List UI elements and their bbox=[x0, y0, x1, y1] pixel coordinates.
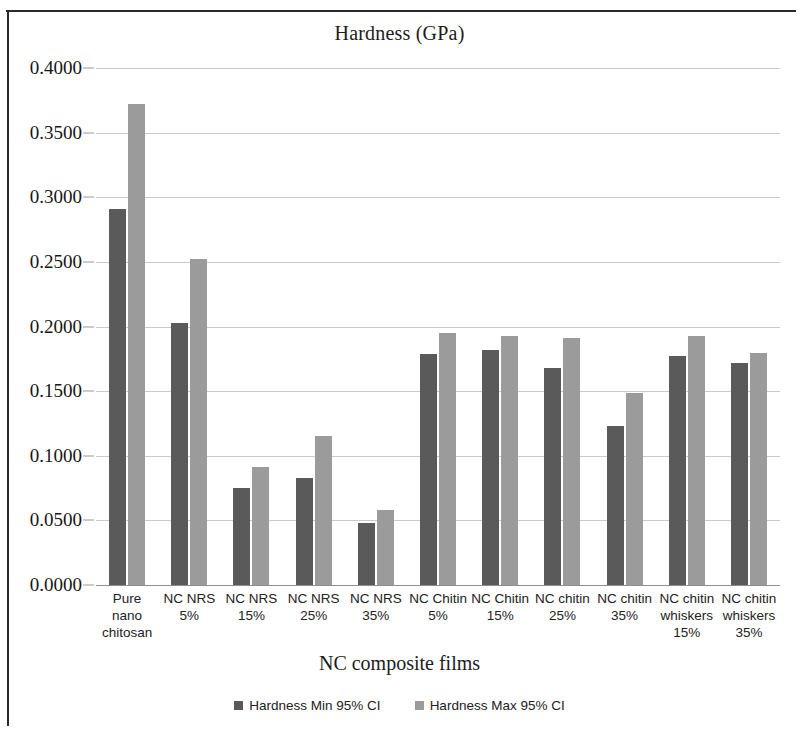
bar[interactable] bbox=[296, 478, 313, 585]
y-axis-tick-mark bbox=[83, 68, 94, 69]
y-axis-tick-mark bbox=[83, 585, 94, 586]
chart-page: Hardness (GPa) 0.40000.35000.30000.25000… bbox=[0, 0, 799, 739]
bar-groups bbox=[96, 68, 780, 585]
bar-group bbox=[594, 68, 656, 585]
y-axis-tick-mark bbox=[83, 261, 94, 262]
x-axis-category-label: NC chitin 35% bbox=[594, 590, 656, 641]
x-axis-category-label: NC chitin whiskers 15% bbox=[656, 590, 718, 641]
y-axis-tick-label: 0.4000 bbox=[30, 57, 82, 79]
bar[interactable] bbox=[109, 209, 126, 585]
bar-group bbox=[283, 68, 345, 585]
y-axis-tick-label: 0.1000 bbox=[30, 445, 82, 467]
bar[interactable] bbox=[377, 510, 394, 585]
y-axis-tick-mark bbox=[83, 455, 94, 456]
gridline bbox=[96, 585, 780, 586]
y-axis-tick-mark bbox=[83, 132, 94, 133]
x-axis-labels: Pure nano chitosanNC NRS 5%NC NRS 15%NC … bbox=[96, 590, 780, 641]
bar-group bbox=[656, 68, 718, 585]
y-axis-tick-label: 0.0000 bbox=[30, 574, 82, 596]
x-axis-category-label: NC chitin 25% bbox=[531, 590, 593, 641]
y-axis-tick-mark bbox=[83, 391, 94, 392]
bar[interactable] bbox=[544, 368, 561, 585]
legend-label: Hardness Max 95% CI bbox=[430, 698, 565, 713]
bar[interactable] bbox=[420, 354, 437, 585]
x-axis-category-label: NC chitin whiskers 35% bbox=[718, 590, 780, 641]
bar[interactable] bbox=[688, 336, 705, 585]
chart-legend: Hardness Min 95% CIHardness Max 95% CI bbox=[0, 698, 799, 713]
bar-group bbox=[469, 68, 531, 585]
y-axis-tick-mark bbox=[83, 197, 94, 198]
legend-swatch-icon bbox=[415, 701, 424, 710]
x-axis-category-label: NC Chitin 5% bbox=[407, 590, 469, 641]
bar[interactable] bbox=[171, 323, 188, 585]
bar[interactable] bbox=[669, 356, 686, 585]
y-axis-tick-mark bbox=[83, 326, 94, 327]
x-axis-category-label: NC NRS 5% bbox=[158, 590, 220, 641]
x-axis-category-label: NC Chitin 15% bbox=[469, 590, 531, 641]
bar[interactable] bbox=[252, 467, 269, 585]
bar[interactable] bbox=[626, 393, 643, 585]
y-axis-tick-label: 0.1500 bbox=[30, 380, 82, 402]
page-frame-top-rule bbox=[6, 10, 796, 12]
bar[interactable] bbox=[190, 259, 207, 585]
y-axis-tick-label: 0.3000 bbox=[30, 186, 82, 208]
bar-group bbox=[718, 68, 780, 585]
bar[interactable] bbox=[128, 104, 145, 585]
y-axis-tick-label: 0.0500 bbox=[30, 509, 82, 531]
bar-group bbox=[158, 68, 220, 585]
bar-group bbox=[345, 68, 407, 585]
bar[interactable] bbox=[439, 333, 456, 585]
y-axis-tick-label: 0.2000 bbox=[30, 316, 82, 338]
bar-group bbox=[220, 68, 282, 585]
plot-area: 0.40000.35000.30000.25000.20000.15000.10… bbox=[96, 68, 780, 585]
bar[interactable] bbox=[607, 426, 624, 585]
bar-group bbox=[531, 68, 593, 585]
bar[interactable] bbox=[501, 336, 518, 585]
x-axis-category-label: NC NRS 35% bbox=[345, 590, 407, 641]
x-axis-category-label: Pure nano chitosan bbox=[96, 590, 158, 641]
legend-item[interactable]: Hardness Max 95% CI bbox=[415, 698, 565, 713]
x-axis-category-label: NC NRS 25% bbox=[283, 590, 345, 641]
y-axis-tick-label: 0.2500 bbox=[30, 251, 82, 273]
y-axis-tick-mark bbox=[83, 520, 94, 521]
bar[interactable] bbox=[563, 338, 580, 585]
x-axis-category-label: NC NRS 15% bbox=[220, 590, 282, 641]
bar[interactable] bbox=[731, 363, 748, 585]
bar[interactable] bbox=[482, 350, 499, 585]
bar[interactable] bbox=[358, 523, 375, 585]
bar[interactable] bbox=[750, 353, 767, 585]
chart-title: Hardness (GPa) bbox=[0, 22, 799, 45]
bar[interactable] bbox=[233, 488, 250, 585]
legend-item[interactable]: Hardness Min 95% CI bbox=[234, 698, 380, 713]
bar[interactable] bbox=[315, 436, 332, 585]
bar-group bbox=[407, 68, 469, 585]
page-frame-left-rule bbox=[7, 10, 9, 726]
y-axis-tick-label: 0.3500 bbox=[30, 122, 82, 144]
x-axis-title: NC composite films bbox=[0, 652, 799, 675]
bar-group bbox=[96, 68, 158, 585]
legend-swatch-icon bbox=[234, 701, 243, 710]
legend-label: Hardness Min 95% CI bbox=[249, 698, 380, 713]
